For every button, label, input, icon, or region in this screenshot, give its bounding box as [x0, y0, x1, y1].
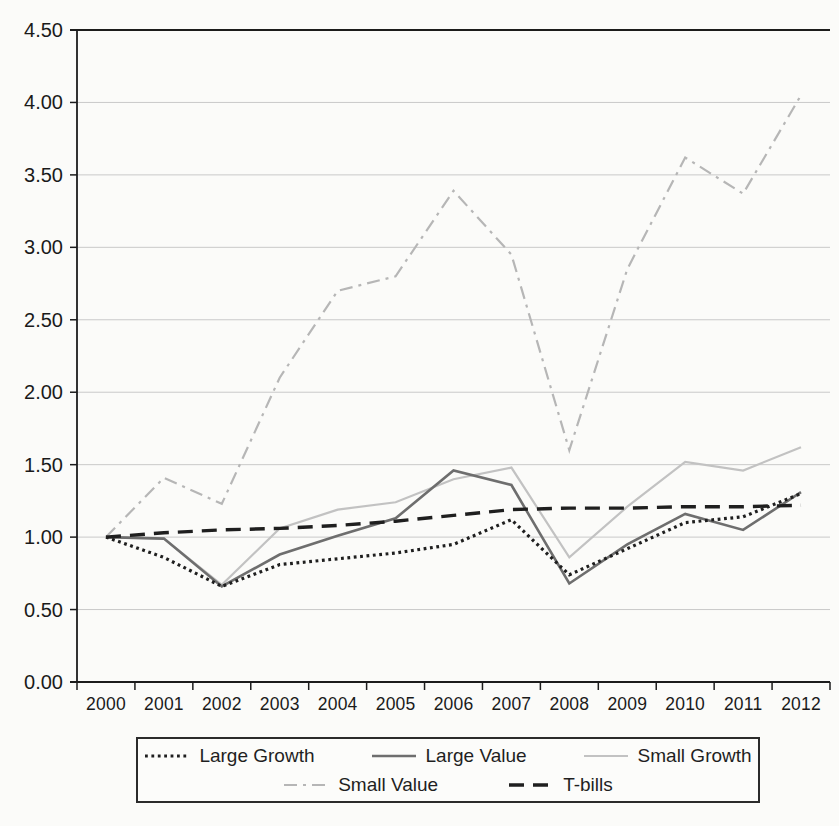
- legend-line-sample-icon: [144, 750, 190, 762]
- x-axis-label: 2005: [376, 694, 416, 714]
- x-axis-label: 2004: [318, 694, 358, 714]
- series-line-t-bills: [106, 505, 801, 537]
- y-axis-label: 0.50: [24, 599, 63, 621]
- series-line-large-growth: [106, 494, 801, 587]
- legend-label: Small Growth: [638, 745, 752, 767]
- legend-label: Large Growth: [199, 745, 314, 767]
- chart-legend: Large GrowthLarge ValueSmall GrowthSmall…: [136, 737, 760, 803]
- x-axis-label: 2010: [665, 694, 705, 714]
- y-axis-label: 4.50: [24, 19, 63, 41]
- legend-line-sample-icon: [371, 750, 417, 762]
- x-axis-label: 2003: [260, 694, 300, 714]
- y-axis-label: 3.00: [24, 236, 63, 258]
- x-axis-label: 2006: [434, 694, 474, 714]
- legend-item-large-value: Large Value: [371, 745, 527, 767]
- x-axis-label: 2008: [549, 694, 589, 714]
- chart-plot: 0.000.501.001.502.002.503.003.504.004.50…: [0, 0, 839, 730]
- legend-line-sample-icon: [283, 779, 329, 791]
- y-axis-label: 0.00: [24, 671, 63, 693]
- x-axis-label: 2001: [144, 694, 184, 714]
- legend-item-t-bills: T-bills: [508, 774, 613, 796]
- x-axis-label: 2000: [86, 694, 126, 714]
- legend-row: Small ValueT-bills: [138, 774, 758, 796]
- y-axis-label: 3.50: [24, 164, 63, 186]
- x-axis-label: 2012: [781, 694, 821, 714]
- legend-item-small-value: Small Value: [283, 774, 438, 796]
- x-axis-label: 2011: [724, 694, 762, 714]
- x-axis-label: 2009: [607, 694, 647, 714]
- x-axis-label: 2007: [492, 694, 532, 714]
- legend-line-sample-icon: [508, 779, 554, 791]
- legend-item-large-growth: Large Growth: [144, 745, 314, 767]
- series-line-large-value: [106, 471, 801, 587]
- y-axis-label: 1.50: [24, 454, 63, 476]
- legend-label: Large Value: [426, 745, 527, 767]
- legend-line-sample-icon: [583, 750, 629, 762]
- y-axis-label: 2.00: [24, 381, 63, 403]
- x-axis-label: 2002: [202, 694, 242, 714]
- legend-label: Small Value: [338, 774, 438, 796]
- y-axis-label: 2.50: [24, 309, 63, 331]
- legend-item-small-growth: Small Growth: [583, 745, 752, 767]
- y-axis-label: 1.00: [24, 526, 63, 548]
- legend-row: Large GrowthLarge ValueSmall Growth: [138, 745, 758, 767]
- y-axis-label: 4.00: [24, 91, 63, 113]
- legend-label: T-bills: [563, 774, 613, 796]
- chart-figure: 0.000.501.001.502.002.503.003.504.004.50…: [0, 0, 839, 826]
